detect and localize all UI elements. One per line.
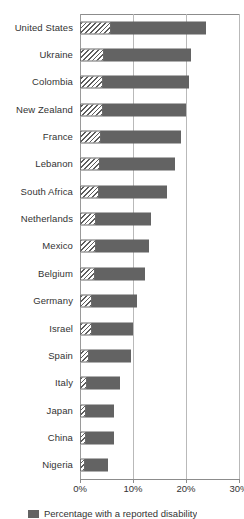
bar-row-bar: [80, 377, 120, 390]
x-tick-label-20: 20%: [176, 484, 195, 494]
bar-row-label: United States: [0, 23, 73, 33]
bar-row-bar: [80, 185, 167, 198]
bar-row-bar: [80, 459, 108, 472]
bar-row-label: Netherlands: [0, 214, 73, 224]
bar-row-bar: [80, 240, 149, 253]
bar-row: Japan: [0, 397, 244, 424]
bar-row: Mexico: [0, 233, 244, 260]
bar-row: Belgium: [0, 260, 244, 287]
bar-segment-solid: [85, 459, 108, 472]
bar-row-label: China: [0, 433, 73, 443]
bar-segment-solid: [101, 131, 181, 144]
bar-row-label: Ukraine: [0, 50, 73, 60]
bar-row-label: Italy: [0, 379, 73, 389]
bar-row-label: Nigeria: [0, 461, 73, 471]
bar-row-bar: [80, 322, 133, 335]
bar-segment-hatched: [80, 21, 111, 34]
legend-label-0: Percentage with a reported disability: [44, 509, 197, 519]
bar-row: Colombia: [0, 69, 244, 96]
bar-row-bar: [80, 267, 145, 280]
bar-row: Spain: [0, 342, 244, 369]
bar-row-label: South Africa: [0, 187, 73, 197]
bar-row: France: [0, 123, 244, 150]
bar-segment-solid: [89, 349, 131, 362]
bar-segment-solid: [100, 158, 175, 171]
bar-row-bar: [80, 158, 175, 171]
bar-segment-solid: [99, 185, 167, 198]
stacked-bar-chart: United StatesUkraineColombiaNew ZealandF…: [0, 0, 244, 519]
bar-segment-hatched: [80, 185, 99, 198]
bar-segment-hatched: [80, 295, 92, 308]
bar-segment-solid: [111, 21, 206, 34]
chart-legend: Percentage with a reported disability: [28, 509, 197, 519]
bar-row-label: Spain: [0, 351, 73, 361]
bar-row-bar: [80, 76, 189, 89]
bar-row: Italy: [0, 370, 244, 397]
bar-segment-hatched: [80, 322, 92, 335]
bar-row: Israel: [0, 315, 244, 342]
bar-segment-solid: [92, 295, 137, 308]
bar-row-bar: [80, 21, 206, 34]
bar-segment-solid: [96, 240, 149, 253]
bar-segment-solid: [86, 431, 114, 444]
bar-row-bar: [80, 404, 114, 417]
bar-row-bar: [80, 131, 181, 144]
bar-row-label: Colombia: [0, 78, 73, 88]
bar-segment-hatched: [80, 158, 100, 171]
bar-segment-solid: [96, 213, 151, 226]
bar-row: China: [0, 424, 244, 451]
bar-row: South Africa: [0, 178, 244, 205]
legend-swatch-solid: [28, 510, 39, 518]
bar-row-label: Israel: [0, 324, 73, 334]
bar-row: Ukraine: [0, 41, 244, 68]
x-tick-label-0: 0%: [73, 484, 87, 494]
bar-segment-solid: [86, 404, 114, 417]
bar-row-bar: [80, 49, 191, 62]
bar-row-bar: [80, 213, 151, 226]
bar-row-bar: [80, 103, 186, 116]
bar-row-label: France: [0, 132, 73, 142]
bar-row-label: Lebanon: [0, 160, 73, 170]
x-tick-label-10: 10%: [123, 484, 142, 494]
bar-segment-solid: [87, 377, 120, 390]
bar-row: Netherlands: [0, 205, 244, 232]
bar-segment-solid: [104, 49, 191, 62]
bar-row-bar: [80, 349, 131, 362]
x-axis-line: [80, 479, 240, 480]
bar-row-bar: [80, 295, 137, 308]
bar-segment-hatched: [80, 377, 87, 390]
bar-segment-hatched: [80, 240, 96, 253]
bar-segment-solid: [92, 322, 133, 335]
bar-row: Lebanon: [0, 151, 244, 178]
bar-row-label: Japan: [0, 406, 73, 416]
bar-segment-hatched: [80, 103, 103, 116]
bar-segment-solid: [103, 76, 189, 89]
bar-segment-hatched: [80, 49, 104, 62]
x-tick-label-30: 30%: [229, 484, 244, 494]
bar-row-label: New Zealand: [0, 105, 73, 115]
bar-row: United States: [0, 14, 244, 41]
bar-row-bar: [80, 431, 114, 444]
bar-segment-hatched: [80, 349, 89, 362]
bar-segment-solid: [103, 103, 186, 116]
bar-segment-hatched: [80, 213, 96, 226]
bar-row: Nigeria: [0, 452, 244, 479]
bar-row: Germany: [0, 288, 244, 315]
bar-segment-hatched: [80, 267, 95, 280]
bar-row-label: Mexico: [0, 242, 73, 252]
bar-segment-solid: [95, 267, 145, 280]
bar-row: New Zealand: [0, 96, 244, 123]
bar-row-label: Germany: [0, 296, 73, 306]
bar-row-label: Belgium: [0, 269, 73, 279]
bar-segment-hatched: [80, 131, 101, 144]
bar-segment-hatched: [80, 76, 103, 89]
